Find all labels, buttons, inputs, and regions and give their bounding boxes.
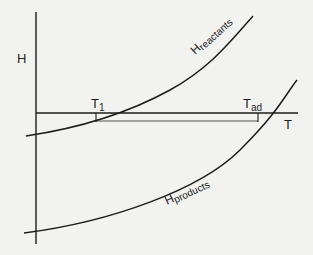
enthalpy-temperature-diagram: H T T1 Tad Hreactants Hproducts (0, 0, 313, 255)
t1-label-main: T (91, 96, 99, 111)
t1-label: T1 (91, 96, 105, 113)
h-reactants-label-sub: reactants (197, 16, 235, 52)
h-products-label: Hproducts (162, 175, 211, 208)
h-products-label-sub: products (172, 179, 211, 205)
h-reactants-label: Hreactants (188, 13, 235, 57)
tad-label-sub: ad (251, 102, 262, 113)
tad-label-main: T (243, 96, 251, 111)
tad-label: Tad (243, 96, 262, 113)
t-axis-label: T (284, 117, 292, 132)
t1-label-sub: 1 (99, 102, 105, 113)
h-axis-label: H (17, 51, 26, 66)
